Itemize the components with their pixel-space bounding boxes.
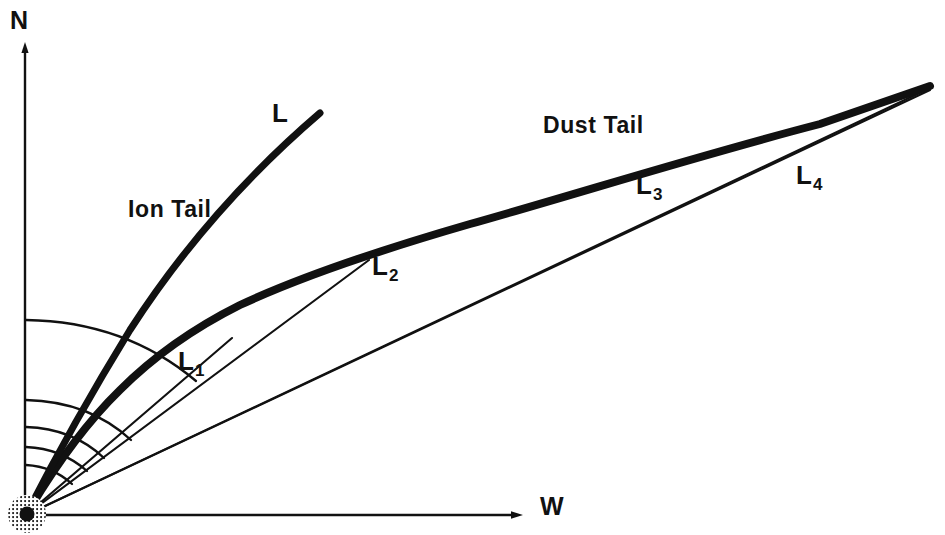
syndyne-L2-subscript: 2	[389, 266, 398, 285]
west-axis-label: W	[540, 494, 564, 519]
syndyne-L4-label: L4	[796, 162, 821, 188]
syndyne-L3-letter: L	[636, 170, 652, 200]
syndyne-line-group	[26, 88, 930, 515]
north-axis-label: N	[10, 8, 29, 33]
dust-tail-label: Dust Tail	[543, 114, 644, 137]
syndyne-L1-letter: L	[178, 346, 194, 376]
syndyne-L2-label: L2	[372, 253, 397, 279]
right-arrow-icon	[511, 511, 523, 519]
syndyne-L1-label: L1	[178, 348, 203, 374]
up-arrow-icon	[21, 42, 28, 53]
diagram-canvas	[0, 0, 945, 535]
syndyne-L1-subscript: 1	[195, 361, 204, 380]
comet-nucleus	[8, 495, 46, 533]
syndyne-L2-letter: L	[372, 251, 388, 281]
comet-tail-diagram: N W Ion Tail Dust Tail L L1 L2 L3 L4	[0, 0, 945, 535]
syndyne-L3-label: L3	[636, 172, 661, 198]
syndyne-L4-letter: L	[796, 160, 812, 190]
syndyne-L-letter: L	[272, 98, 288, 128]
syndyne-L4-line	[26, 90, 930, 515]
syndyne-L4-subscript: 4	[813, 175, 822, 194]
syndyne-L3-subscript: 3	[653, 185, 662, 204]
syndyne-L2-line	[26, 260, 369, 515]
syndyne-L-label: L	[272, 100, 288, 126]
ion-tail-label: Ion Tail	[128, 198, 212, 221]
